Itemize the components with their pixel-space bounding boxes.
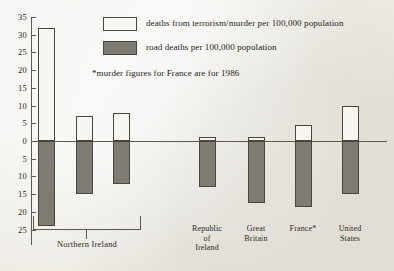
bar-terrorism-murder (295, 125, 312, 141)
y-axis-tick (31, 212, 36, 213)
legend-swatch-terrorism-murder (103, 17, 137, 31)
category-label-line-1: Republic (184, 224, 230, 234)
northern-ireland-bracket (33, 216, 141, 230)
bar-road-deaths (295, 141, 312, 207)
category-label-line-2: of (184, 234, 230, 244)
group-label-northern-ireland: Northern Ireland (37, 239, 137, 249)
category-label-great-britain: Great Britain (233, 224, 279, 243)
footnote-france-murder-figures: *murder figures for France are for 1986 (92, 68, 239, 79)
y-axis-tick-label: 20 (6, 66, 27, 75)
y-axis-tick-label: 15 (6, 190, 27, 199)
bar-road-deaths (38, 141, 55, 226)
y-axis-tick (31, 176, 36, 177)
legend-swatch-road-deaths (103, 41, 137, 55)
bar-terrorism-murder (342, 106, 359, 141)
northern-ireland-bracket-stem (86, 230, 87, 239)
y-axis-tick-label: 5 (6, 155, 27, 164)
y-axis-tick (31, 159, 36, 160)
category-label-line-1: United (327, 224, 373, 234)
y-axis-tick-label: 5 (6, 119, 27, 128)
y-axis-tick (31, 106, 36, 107)
bar-road-deaths (342, 141, 359, 194)
category-label-line-1: France* (280, 224, 326, 234)
y-axis-tick (31, 230, 36, 231)
bar-chart: 35302520151050510152025 Northern Ireland… (0, 0, 394, 271)
y-axis-tick (31, 123, 36, 124)
category-label-united-states: United States (327, 224, 373, 243)
bar-terrorism-murder (38, 28, 55, 141)
category-label-line-2: Britain (233, 234, 279, 244)
bar-road-deaths (113, 141, 130, 184)
y-axis-tick (31, 70, 36, 71)
category-label-republic-of-ireland: Republic of Ireland (184, 224, 230, 253)
y-axis-tick-label: 35 (6, 13, 27, 22)
y-axis-tick-label: 25 (6, 226, 27, 235)
y-axis-tick (31, 17, 36, 18)
y-axis-tick (31, 35, 36, 36)
category-label-france: France* (280, 224, 326, 234)
bar-terrorism-murder (113, 113, 130, 141)
y-axis-tick-label: 15 (6, 84, 27, 93)
y-axis-tick (31, 52, 36, 53)
y-axis-tick-label: 0 (6, 137, 27, 146)
y-axis-tick (31, 141, 36, 142)
y-axis-tick (31, 194, 36, 195)
legend-label-road-deaths: road deaths per 100,000 population (146, 42, 277, 53)
y-axis-tick (31, 88, 36, 89)
category-label-line-3: Ireland (184, 243, 230, 253)
y-axis-tick-label: 30 (6, 31, 27, 40)
y-axis-tick-label: 10 (6, 172, 27, 181)
legend-label-terrorism-murder: deaths from terrorism/murder per 100,000… (146, 18, 344, 29)
y-axis-tick-label: 10 (6, 102, 27, 111)
bar-road-deaths (199, 141, 216, 187)
bar-road-deaths (248, 141, 265, 203)
category-label-line-1: Great (233, 224, 279, 234)
category-label-line-2: States (327, 234, 373, 244)
y-axis-tick-label: 20 (6, 208, 27, 217)
bar-road-deaths (76, 141, 93, 194)
y-axis-tick-label: 25 (6, 48, 27, 57)
bar-terrorism-murder (76, 116, 93, 141)
